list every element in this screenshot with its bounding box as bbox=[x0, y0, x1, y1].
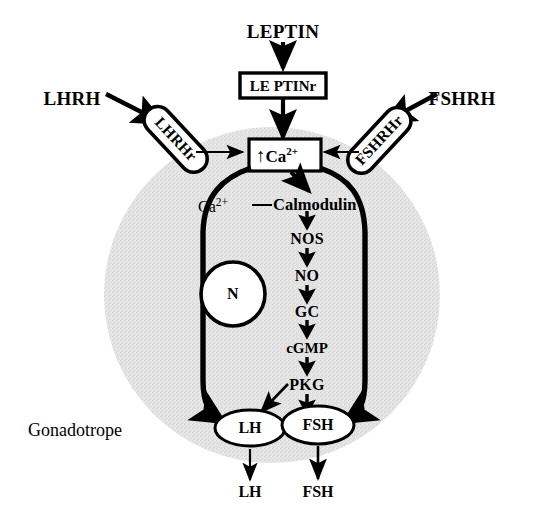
label-fshrh: FSHRH bbox=[429, 89, 496, 108]
calcium-complex-ion: Ca2+ bbox=[198, 197, 228, 215]
calcium-box-content: ↑Ca2+ bbox=[256, 146, 298, 165]
calcium-complex-ion-label: Ca bbox=[198, 198, 216, 215]
cascade-step-cgmp: cGMP bbox=[286, 341, 328, 356]
calcium-complex-charge-label: 2+ bbox=[216, 196, 228, 208]
cascade-step-no: NO bbox=[295, 268, 319, 284]
calcium-charge-label: 2+ bbox=[286, 145, 298, 157]
label-leptin: LEPTIN bbox=[247, 22, 320, 41]
label-gonadotrope: Gonadotrope bbox=[28, 421, 122, 439]
label-lhrh: LHRH bbox=[43, 89, 100, 108]
label-lh-secreted: LH bbox=[238, 484, 261, 500]
cascade-step-nos: NOS bbox=[290, 231, 324, 247]
label-fsh-secreted: FSH bbox=[302, 484, 333, 500]
calcium-increase-arrow-icon: ↑ bbox=[256, 145, 266, 166]
label-lh-vesicle: LH bbox=[238, 420, 261, 436]
cascade-step-gc: GC bbox=[295, 304, 319, 320]
calcium-ion-label: Ca bbox=[266, 147, 287, 166]
label-fsh-vesicle: FSH bbox=[302, 417, 333, 433]
label-nucleus: N bbox=[227, 286, 239, 302]
cascade-step-pkg: PKG bbox=[289, 377, 324, 393]
label-leptin-receptor: LE PTINr bbox=[250, 79, 316, 94]
pathway-figure: LEPTIN LE PTINr LHRH LHRHr FSHRH FSHRHr … bbox=[0, 0, 533, 520]
label-calmodulin: Calmodulin bbox=[273, 197, 356, 214]
